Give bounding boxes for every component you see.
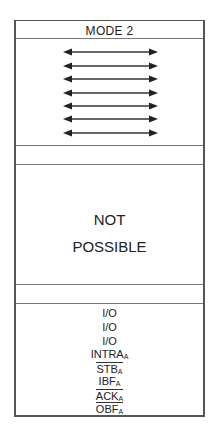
mode-2-table: MODE 2 NOT POSSIBLE I/O I/O I/O INTRAA S… [14,20,205,417]
double-headed-arrow-icon [63,115,158,123]
divider [16,145,203,146]
double-headed-arrow-icon [63,129,158,137]
divider [16,303,203,304]
divider [16,164,203,165]
divider [16,38,203,39]
double-headed-arrow-icon [63,62,158,70]
double-headed-arrow-icon [63,89,158,97]
pin-label: I/O [16,321,203,334]
not-possible-line1: NOT [16,211,203,228]
double-headed-arrow-icon [63,75,158,83]
divider [16,284,203,285]
pin-label-obf: OBFA [16,402,203,418]
pin-label: I/O [16,335,203,348]
mode-title: MODE 2 [16,24,203,38]
double-headed-arrow-icon [63,102,158,110]
pin-label-intra: INTRAA [16,348,203,363]
pin-label-ibf: IBFA [16,375,203,390]
not-possible-line2: POSSIBLE [16,238,203,255]
pin-label: I/O [16,307,203,320]
double-headed-arrow-icon [63,48,158,56]
